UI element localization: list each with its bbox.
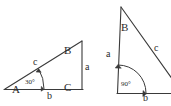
triangle-left-vertex-a-label: A [12, 84, 20, 95]
triangle-left-side-a-label: a [85, 62, 89, 72]
triangle-right-vertex-b-label: B [121, 22, 128, 33]
triangle-left-side-c-label: c [33, 57, 37, 67]
triangle-right-angle-arc [118, 65, 146, 93]
triangle-right-side-b-label: b [143, 93, 148, 103]
triangle-right-angle-label: 90° [121, 81, 131, 88]
triangle-left-vertex-b-label: B [64, 45, 71, 56]
triangle-left-vertex-c-label: C [64, 82, 71, 93]
triangle-right-side-a-label: a [106, 49, 110, 59]
triangle-left-side-b-label: b [47, 91, 52, 101]
triangles-vector-layer [0, 0, 171, 106]
triangle-left-angle-label: 30° [25, 79, 35, 86]
triangle-right-hypotenuse-line [121, 7, 171, 80]
diagram-canvas: A B C c a b 30° B a c b 90° [0, 0, 171, 106]
triangle-right-side-c-label: c [154, 43, 158, 53]
